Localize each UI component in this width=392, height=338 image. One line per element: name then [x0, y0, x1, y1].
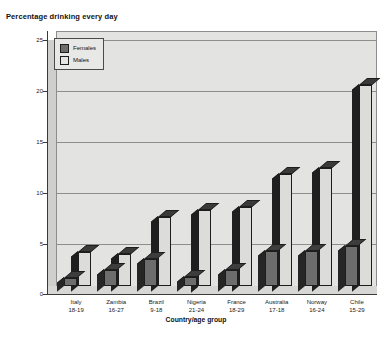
bar-side	[177, 276, 184, 292]
legend-swatch-females	[60, 44, 69, 53]
bar-face	[104, 270, 117, 286]
bar-side	[137, 258, 144, 291]
x-axis-line	[47, 294, 377, 295]
bar-top	[279, 167, 300, 174]
chart-title: Percentage drinking every day	[6, 12, 118, 21]
bar-group	[265, 31, 292, 286]
bar-norway-males	[319, 168, 332, 286]
y-axis-tick-label: 10	[36, 190, 43, 196]
bar-group	[144, 31, 171, 286]
bar-australia-males	[279, 174, 292, 286]
bar-top	[158, 210, 179, 217]
bar-top	[78, 245, 99, 252]
bar-italy-males	[78, 252, 91, 286]
bar-side	[338, 245, 345, 292]
bar-top	[319, 161, 340, 168]
x-axis-label-country: Chile	[331, 299, 383, 307]
bar-france-females	[225, 270, 238, 286]
bar-top	[198, 203, 219, 210]
legend-swatch-males	[60, 56, 69, 65]
bar-group	[184, 31, 211, 286]
bar-face	[184, 277, 197, 286]
bar-top	[118, 247, 139, 254]
y-axis-tick-label: 25	[36, 37, 43, 43]
bar-face	[265, 251, 278, 286]
legend-item-females: Females	[60, 43, 96, 53]
bar-brazil-females	[144, 259, 157, 286]
bar-zambia-males	[118, 254, 131, 286]
legend-item-males: Males	[60, 55, 96, 65]
chart-legend: Females Males	[54, 38, 104, 70]
legend-label-males: Males	[73, 57, 89, 63]
bar-group	[305, 31, 332, 286]
bar-australia-females	[265, 251, 278, 286]
bar-norway-females	[305, 251, 318, 286]
x-axis-label-chile: Chile15-29	[331, 299, 383, 314]
bar-face	[359, 85, 372, 286]
bar-face	[118, 254, 131, 286]
bar-side	[218, 269, 225, 292]
y-axis-tick-label: 20	[36, 88, 43, 94]
bar-top	[359, 78, 380, 85]
bar-face	[345, 246, 358, 286]
bar-side	[258, 250, 265, 292]
bar-side	[57, 277, 64, 292]
bar-side	[298, 250, 305, 292]
x-axis-title: Country/age group	[0, 316, 392, 323]
bar-group	[104, 31, 131, 286]
bar-face	[144, 259, 157, 286]
plot-area: 0510152025	[47, 31, 377, 295]
bar-face	[225, 270, 238, 286]
bar-chile-males	[359, 85, 372, 286]
bar-face	[279, 174, 292, 286]
bar-face	[198, 210, 211, 287]
bar-face	[239, 207, 252, 286]
bar-zambia-females	[104, 270, 117, 286]
bar-face	[64, 278, 77, 286]
bar-group	[225, 31, 252, 286]
bar-face	[78, 252, 91, 286]
bar-france-males	[239, 207, 252, 286]
bar-top	[239, 200, 260, 207]
x-axis-label-age: 15-29	[331, 307, 383, 315]
chart-container: Percentage drinking every day 0510152025…	[0, 0, 392, 338]
bar-side	[97, 269, 104, 292]
legend-label-females: Females	[73, 45, 96, 51]
bar-group	[345, 31, 372, 286]
bar-nigeria-females	[184, 277, 197, 286]
y-axis-tick-label: 15	[36, 139, 43, 145]
bars-layer	[47, 31, 377, 295]
bar-chile-females	[345, 246, 358, 286]
bar-face	[305, 251, 318, 286]
y-axis-line	[47, 31, 48, 295]
bar-italy-females	[64, 278, 77, 286]
bar-nigeria-males	[198, 210, 211, 287]
bar-face	[319, 168, 332, 286]
